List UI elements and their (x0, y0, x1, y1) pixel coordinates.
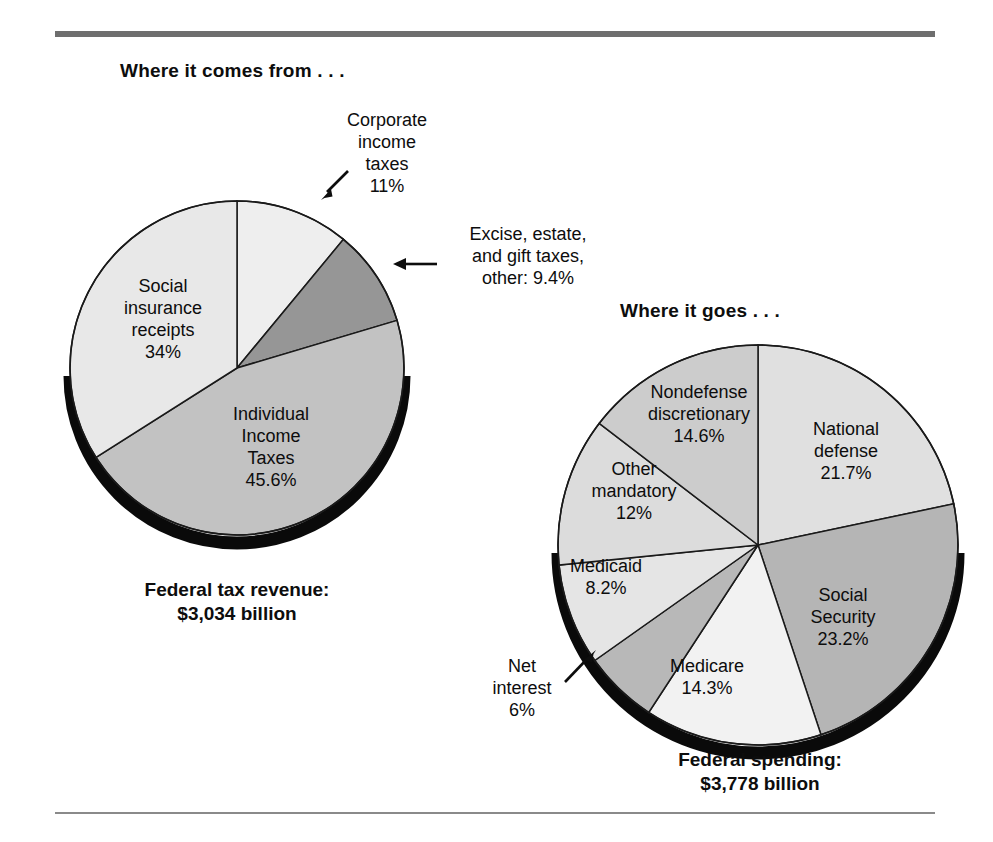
callout-arrow-net-interest-icon (562, 648, 602, 686)
figure-canvas: Where it comes from . . . Where it goes … (0, 0, 993, 842)
slice-label-social-security: Social Security 23.2% (810, 585, 875, 651)
slice-label-nondefense-discretionary: Nondefense discretionary 14.6% (648, 382, 750, 448)
callout-net-interest: Net interest 6% (478, 656, 566, 722)
slice-label-national-defense: National defense 21.7% (813, 419, 879, 485)
spending-caption: Federal spending: $3,778 billion (678, 748, 842, 796)
slice-label-medicaid: Medicaid 8.2% (570, 556, 642, 600)
slice-label-other-mandatory: Other mandatory 12% (591, 459, 676, 525)
spending-pie-slices (558, 345, 958, 745)
slice-label-medicare: Medicare 14.3% (670, 656, 744, 700)
